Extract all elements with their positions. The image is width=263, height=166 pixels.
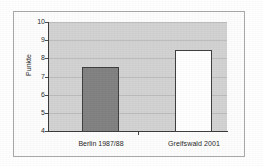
- bar-berlin[interactable]: [82, 67, 119, 132]
- y-axis-tick-row: 9: [0, 36, 45, 43]
- bar-greifswald[interactable]: [175, 50, 212, 132]
- bar-chart: 10987654 Punkte Berlin 1987/88 Greifswal…: [0, 0, 263, 166]
- y-axis-tick-row: 8: [0, 54, 45, 61]
- gridline: [48, 22, 227, 23]
- x-axis-label-greifswald: Greifswald 2001: [148, 139, 240, 148]
- y-axis-tick-row: 6: [0, 91, 45, 98]
- y-axis-tick-label: 10: [5, 18, 45, 25]
- y-axis-tick-label: 4: [5, 127, 45, 134]
- x-axis-label-berlin: Berlin 1987/88: [55, 139, 147, 148]
- y-axis-tick-row: 5: [0, 109, 45, 116]
- y-axis-tick-row: 7: [0, 73, 45, 80]
- gridline: [48, 40, 227, 41]
- y-axis-tick-row: 10: [0, 18, 45, 25]
- y-axis-tick-label: 5: [5, 109, 45, 116]
- y-axis-tick-label: 6: [5, 91, 45, 98]
- y-axis-tick-row: 4: [0, 127, 45, 134]
- y-axis-title: Punkte: [25, 43, 33, 87]
- y-axis-line: [48, 22, 49, 132]
- x-axis-tick-mark: [138, 132, 139, 135]
